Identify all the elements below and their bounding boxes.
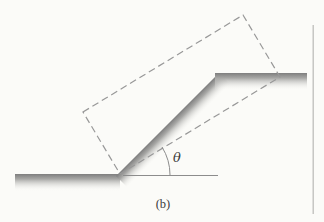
incline-figure-canvas: θ (b) xyxy=(0,0,324,222)
lower-ground-surface xyxy=(15,174,120,191)
caption-label: (b) xyxy=(156,197,171,211)
figure-diagram: θ (b) xyxy=(0,0,324,222)
theta-label: θ xyxy=(173,150,181,165)
upper-ground-surface xyxy=(215,73,307,90)
